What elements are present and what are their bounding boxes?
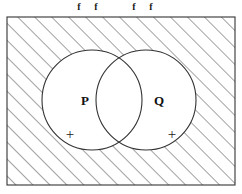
set-q-plus-marker: + [168,126,176,142]
set-q-label: Q [154,93,164,108]
set-q-group: Q + [96,50,196,150]
venn-diagram-canvas: P + Q + [0,0,242,194]
set-q-circle [96,50,196,150]
venn-diagram-figure: f f f f P + Q + [0,0,242,194]
set-p-plus-marker: + [66,126,74,142]
set-p-label: P [81,93,89,108]
